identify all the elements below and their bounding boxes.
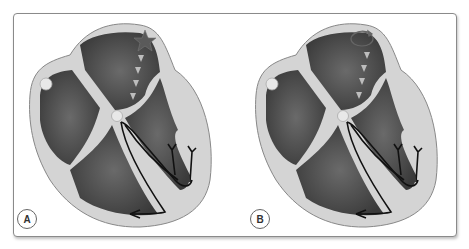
heart-diagram-a xyxy=(0,0,235,249)
panel-label-a: A xyxy=(17,209,37,229)
sa-node-icon xyxy=(40,78,52,90)
av-node-icon xyxy=(112,111,123,122)
panel-a: A xyxy=(0,0,235,249)
heart-diagram-b xyxy=(234,0,469,249)
panel-b: B xyxy=(234,0,469,249)
sa-node-icon xyxy=(266,78,278,90)
av-node-icon xyxy=(338,111,349,122)
panel-label-b: B xyxy=(250,209,270,229)
